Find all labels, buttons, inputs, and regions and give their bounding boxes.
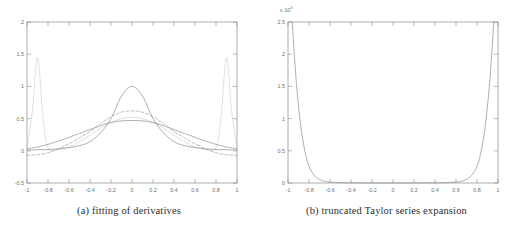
plot-b-xticklabel-1: -0.8 xyxy=(304,187,313,193)
plot-b-xticklabel-0: -1 xyxy=(286,187,291,193)
plot-a-svg: -0.5 0 0.5 1 1.5 2 xyxy=(0,0,258,200)
plot-b-xticklabel-4: -0.2 xyxy=(367,187,376,193)
plot-b-yticklabel-1: 0.5 xyxy=(278,148,286,154)
plot-b-frame xyxy=(288,22,498,183)
plot-a-yticklabel-3: 1 xyxy=(21,83,24,89)
plot-a-curves xyxy=(27,57,237,155)
plot-a-xticklabel-2: -0.6 xyxy=(64,187,73,193)
plot-b: x 103 xyxy=(258,0,515,200)
subfigure-b: x 103 xyxy=(258,0,515,234)
plot-a-xticklabel-4: -0.2 xyxy=(106,187,115,193)
plot-b-yticklabel-5: 2.5 xyxy=(278,19,286,25)
plot-a-x-ticklabels: -1 -0.8 -0.6 -0.4 -0.2 0 0.2 0.4 0.6 0.8… xyxy=(25,187,239,193)
plot-a-y-ticks xyxy=(27,22,237,183)
curve-gaussian-peak xyxy=(27,86,237,150)
plot-a-xticklabel-9: 0.8 xyxy=(212,187,220,193)
plot-a-xticklabel-1: -0.8 xyxy=(43,187,52,193)
plot-a-x-ticks xyxy=(27,22,237,183)
caption-a: (a) fitting of derivatives xyxy=(0,205,258,216)
curve-truncated-taylor-error xyxy=(292,22,494,183)
plot-b-yticklabel-0: 0 xyxy=(282,180,285,186)
subfigure-a: -0.5 0 0.5 1 1.5 2 xyxy=(0,0,258,234)
plot-a-yticklabel-4: 1.5 xyxy=(17,51,25,57)
plot-b-yticklabel-4: 2 xyxy=(282,51,285,57)
figure-root: -0.5 0 0.5 1 1.5 2 xyxy=(0,0,515,234)
plot-b-y-exponent-label: x 103 xyxy=(280,6,292,13)
plot-b-xticklabel-3: -0.4 xyxy=(346,187,355,193)
plot-b-xticklabel-7: 0.4 xyxy=(431,187,439,193)
plot-a-yticklabel-1: 0 xyxy=(21,148,24,154)
plot-a-xticklabel-5: 0 xyxy=(131,187,134,193)
plot-b-y-ticks xyxy=(288,22,498,183)
plot-b-y-ticklabels: 0 0.5 1 1.5 2 2.5 xyxy=(278,19,286,186)
plot-a-xticklabel-7: 0.4 xyxy=(170,187,178,193)
plot-b-x-ticklabels: -1 -0.8 -0.6 -0.4 -0.2 0 0.2 0.4 0.6 0.8… xyxy=(286,187,500,193)
plot-a-xticklabel-10: 1 xyxy=(236,187,239,193)
plot-b-yticklabel-2: 1 xyxy=(282,116,285,122)
plot-a-yticklabel-2: 0.5 xyxy=(17,116,25,122)
plot-b-exp-power: 3 xyxy=(290,6,292,10)
plot-b-xticklabel-6: 0.2 xyxy=(410,187,418,193)
plot-a-xticklabel-6: 0.2 xyxy=(149,187,157,193)
plot-b-xticklabel-9: 0.8 xyxy=(473,187,481,193)
plot-a-yticklabel-0: -0.5 xyxy=(15,180,24,186)
plot-a: -0.5 0 0.5 1 1.5 2 xyxy=(0,0,258,200)
plot-b-xticklabel-10: 1 xyxy=(497,187,500,193)
plot-b-svg: x 103 xyxy=(258,0,515,200)
plot-a-yticklabel-5: 2 xyxy=(21,19,24,25)
plot-b-curves xyxy=(292,22,494,183)
plot-b-exp-base: x 10 xyxy=(280,7,290,13)
plot-b-xticklabel-8: 0.6 xyxy=(452,187,460,193)
plot-b-xticklabel-2: -0.6 xyxy=(325,187,334,193)
plot-a-frame xyxy=(27,22,237,183)
plot-a-xticklabel-8: 0.6 xyxy=(191,187,199,193)
plot-b-yticklabel-3: 1.5 xyxy=(278,83,286,89)
curve-flat-solid-fit xyxy=(27,121,237,149)
plot-b-x-ticks xyxy=(288,22,498,183)
curve-dotted-oscillating-fit xyxy=(27,57,237,150)
plot-a-y-ticklabels: -0.5 0 0.5 1 1.5 2 xyxy=(15,19,24,186)
plot-a-xticklabel-0: -1 xyxy=(25,187,30,193)
plot-b-xticklabel-5: 0 xyxy=(392,187,395,193)
caption-b: (b) truncated Taylor series expansion xyxy=(258,205,515,216)
plot-a-xticklabel-3: -0.4 xyxy=(85,187,94,193)
